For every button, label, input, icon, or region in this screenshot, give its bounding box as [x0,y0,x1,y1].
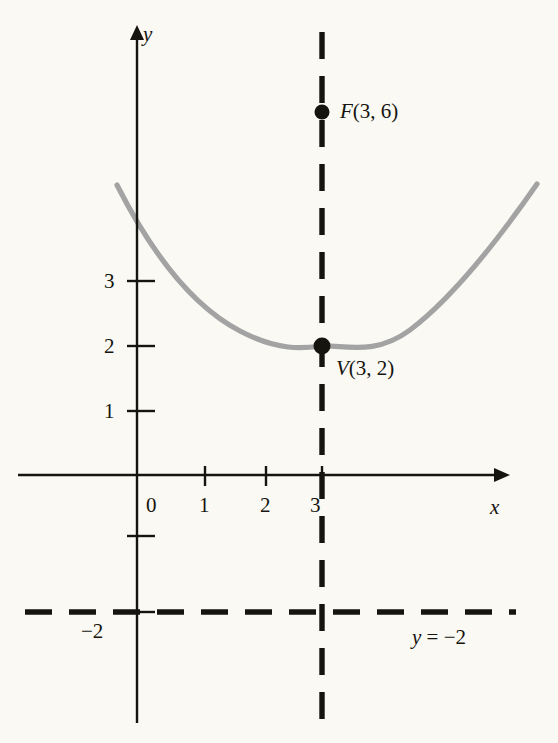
y-tick-label-1: 1 [104,401,115,422]
x-axis-arrowhead [494,468,510,482]
x-tick-label-3: 3 [310,495,321,516]
directrix-symbol: y [412,625,421,649]
vertex-point-label: V(3, 2) [336,358,394,379]
x-tick-label-1: 1 [199,495,210,516]
y-tick-label-2: 2 [104,336,115,357]
focus-coords: (3, 6) [353,99,399,123]
x-tick-label-2: 2 [260,495,271,516]
y-axis-arrowhead [130,25,144,40]
x-axis-label: x [490,497,499,518]
origin-label: 0 [146,495,157,516]
y-tick-label-3: 3 [104,271,115,292]
parabola-curve [117,184,537,348]
focus-point-label: F(3, 6) [340,101,398,122]
directrix-equation-label: y = −2 [412,627,466,648]
focus-symbol: F [340,99,353,123]
focus-point-marker [315,105,330,120]
y-axis-label: y [143,24,152,45]
vertex-coords: (3, 2) [349,356,395,380]
parabola-figure: y x 0 1 2 3 3 2 1 −2 F(3, 6) V(3, 2) y =… [0,0,558,743]
y-tick-label-neg2: −2 [81,621,103,642]
directrix-rest: = −2 [421,625,466,649]
vertex-point-marker [314,338,331,355]
vertex-symbol: V [336,356,349,380]
